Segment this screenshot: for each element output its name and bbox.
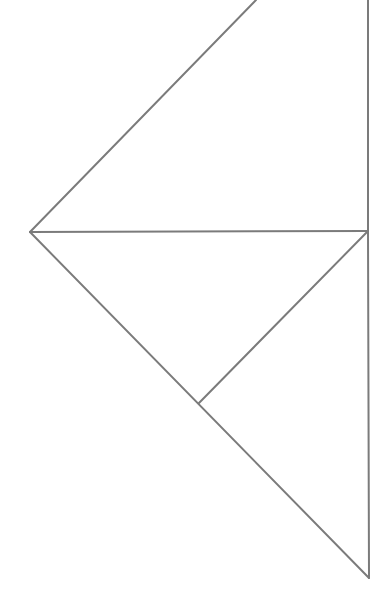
lower-long-diagonal-line [30,232,369,578]
upper-diagonal-line [30,0,256,232]
diagram-canvas [0,0,387,612]
inner-diagonal-line [199,231,368,403]
right-vertical-lower-line [368,231,369,578]
triangle-figure [0,0,387,612]
horizontal-middle-line [30,231,368,232]
